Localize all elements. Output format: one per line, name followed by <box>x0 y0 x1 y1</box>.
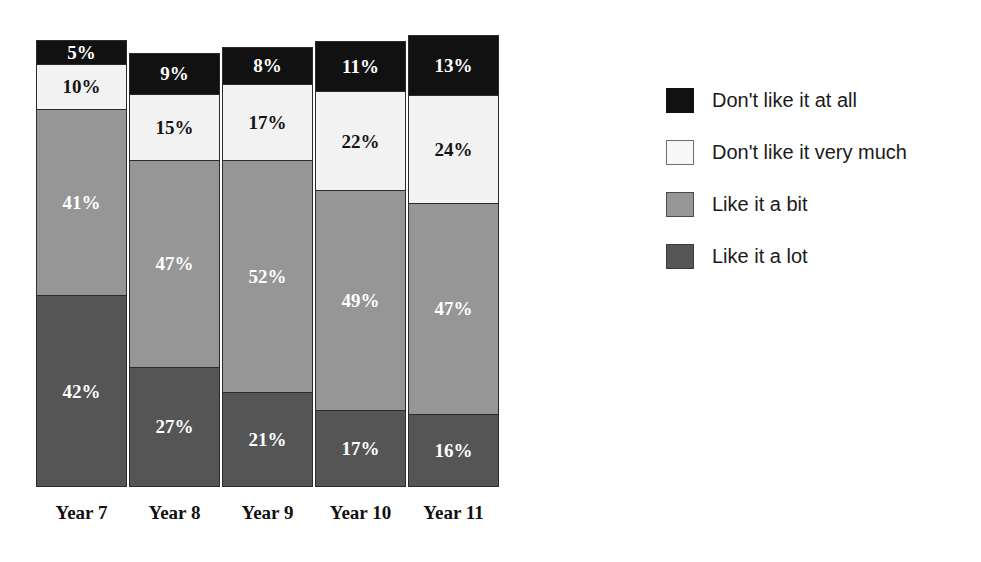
stacked-bar: 11%22%49%17% <box>315 41 406 487</box>
stacked-bar: 9%15%47%27% <box>129 53 220 487</box>
bar-segment-like-bit: 52% <box>223 160 312 392</box>
chart-legend: Don't like it at allDon't like it very m… <box>666 74 966 282</box>
bar-segment-like-bit: 47% <box>409 203 498 415</box>
stacked-bar: 5%10%41%42% <box>36 40 127 487</box>
bar-segment-dislike-all: 9% <box>130 54 219 94</box>
legend-swatch-dislike-all <box>666 88 694 113</box>
legend-swatch-like-lot <box>666 244 694 269</box>
bar-segment-like-bit: 41% <box>37 109 126 295</box>
bar-segment-dislike-much: 24% <box>409 95 498 203</box>
segment-value-label: 21% <box>249 430 287 449</box>
bar-segment-dislike-all: 13% <box>409 36 498 95</box>
legend-swatch-like-bit <box>666 192 694 217</box>
segment-value-label: 22% <box>342 132 380 151</box>
legend-label: Like it a bit <box>712 193 808 216</box>
bar-segment-like-lot: 16% <box>409 414 498 486</box>
bar-segment-dislike-much: 15% <box>130 94 219 160</box>
bar-segment-dislike-much: 10% <box>37 64 126 109</box>
legend-label: Like it a lot <box>712 245 808 268</box>
bar-segment-like-bit: 47% <box>130 160 219 367</box>
bar-segment-like-lot: 27% <box>130 367 219 486</box>
legend-swatch-dislike-much <box>666 140 694 165</box>
segment-value-label: 42% <box>63 382 101 401</box>
segment-value-label: 27% <box>156 417 194 436</box>
legend-item: Don't like it at all <box>666 74 966 126</box>
bar-segment-like-lot: 42% <box>37 295 126 486</box>
bar-segment-dislike-much: 17% <box>223 84 312 160</box>
segment-value-label: 52% <box>249 267 287 286</box>
bar-segment-dislike-much: 22% <box>316 91 405 190</box>
legend-label: Don't like it at all <box>712 89 857 112</box>
legend-item: Like it a lot <box>666 230 966 282</box>
segment-value-label: 47% <box>435 299 473 318</box>
category-label: Year 7 <box>36 502 127 524</box>
category-label: Year 11 <box>408 502 499 524</box>
stacked-bar-chart: 5%10%41%42%Year 79%15%47%27%Year 88%17%5… <box>0 0 660 562</box>
bar-segment-like-lot: 17% <box>316 410 405 486</box>
segment-value-label: 8% <box>253 56 282 75</box>
stacked-bar: 8%17%52%21% <box>222 47 313 487</box>
segment-value-label: 47% <box>156 254 194 273</box>
segment-value-label: 17% <box>249 113 287 132</box>
segment-value-label: 17% <box>342 439 380 458</box>
category-label: Year 10 <box>315 502 406 524</box>
stacked-bar: 13%24%47%16% <box>408 35 499 487</box>
bar-segment-dislike-all: 11% <box>316 42 405 91</box>
bar-segment-dislike-all: 5% <box>37 41 126 64</box>
bar-segment-dislike-all: 8% <box>223 48 312 84</box>
segment-value-label: 5% <box>67 43 96 62</box>
segment-value-label: 9% <box>160 64 189 83</box>
segment-value-label: 10% <box>63 77 101 96</box>
segment-value-label: 15% <box>156 118 194 137</box>
bar-segment-like-bit: 49% <box>316 190 405 410</box>
category-label: Year 9 <box>222 502 313 524</box>
segment-value-label: 16% <box>435 441 473 460</box>
segment-value-label: 41% <box>63 193 101 212</box>
legend-item: Don't like it very much <box>666 126 966 178</box>
legend-label: Don't like it very much <box>712 141 907 164</box>
segment-value-label: 49% <box>342 291 380 310</box>
segment-value-label: 11% <box>342 57 379 76</box>
segment-value-label: 13% <box>435 56 473 75</box>
legend-item: Like it a bit <box>666 178 966 230</box>
bar-segment-like-lot: 21% <box>223 392 312 486</box>
segment-value-label: 24% <box>435 140 473 159</box>
category-label: Year 8 <box>129 502 220 524</box>
